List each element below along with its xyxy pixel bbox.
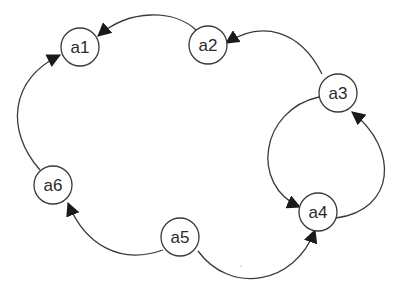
node-label: a1 xyxy=(71,38,90,57)
node-a6: a6 xyxy=(34,166,72,204)
directed-graph-diagram: a1 a2 a3 a4 a5 a6 xyxy=(0,0,404,290)
edge-a2-to-a1 xyxy=(98,15,196,36)
edge-a3-to-a4 xyxy=(268,97,319,207)
edge-a5-to-a6 xyxy=(68,203,163,255)
edge-a5-to-a4 xyxy=(198,230,315,279)
edge-a6-to-a1 xyxy=(17,55,60,170)
node-label: a5 xyxy=(171,228,190,247)
node-a1: a1 xyxy=(61,28,99,66)
node-label: a3 xyxy=(329,84,348,103)
node-label: a2 xyxy=(199,36,218,55)
edge-a3-to-a2 xyxy=(226,31,322,74)
node-a4: a4 xyxy=(299,193,337,231)
node-label: a4 xyxy=(309,203,328,222)
edge-a4-to-a3 xyxy=(336,112,385,218)
node-a2: a2 xyxy=(189,26,227,64)
node-label: a6 xyxy=(44,176,63,195)
node-a3: a3 xyxy=(319,74,357,112)
scan-speck xyxy=(240,265,242,267)
node-a5: a5 xyxy=(161,218,199,256)
